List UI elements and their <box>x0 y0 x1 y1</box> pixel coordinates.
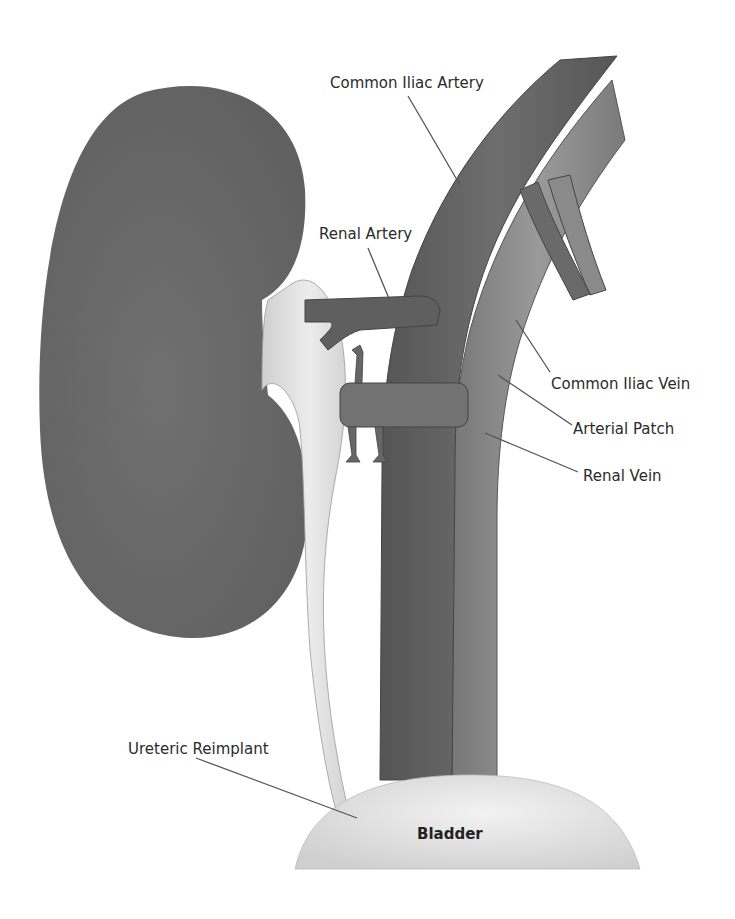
label-renal-artery: Renal Artery <box>319 225 412 243</box>
label-ureteric-reimplant: Ureteric Reimplant <box>128 740 269 758</box>
renal-vein <box>340 383 468 427</box>
ligated-vessel-left <box>346 427 360 462</box>
leader-common-iliac-vein <box>516 320 550 372</box>
label-bladder: Bladder <box>417 825 483 843</box>
label-arterial-patch: Arterial Patch <box>573 420 674 438</box>
ligated-vessel-top <box>352 345 363 383</box>
leader-renal-artery <box>368 248 390 301</box>
label-common-iliac-vein: Common Iliac Vein <box>551 375 690 393</box>
label-common-iliac-artery: Common Iliac Artery <box>330 74 484 92</box>
leader-common-iliac-artery <box>408 96 460 185</box>
bladder <box>295 775 640 869</box>
label-renal-vein: Renal Vein <box>583 467 662 485</box>
transplant-diagram: Common Iliac Artery Renal Artery Common … <box>0 0 735 919</box>
